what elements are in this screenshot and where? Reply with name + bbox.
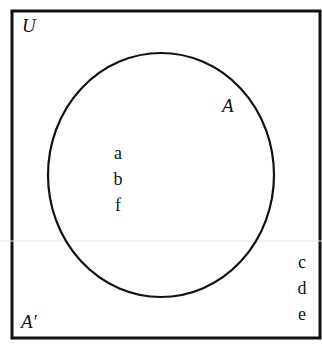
element-d: d	[294, 275, 310, 301]
set-a-circle	[48, 53, 274, 297]
set-a-label: A	[222, 96, 234, 115]
element-c: c	[294, 249, 310, 275]
venn-shapes	[0, 0, 322, 348]
complement-label: A′	[21, 312, 37, 331]
element-b: b	[110, 166, 126, 192]
element-a: a	[110, 140, 126, 166]
venn-diagram: U A A′ a b f c d e	[0, 0, 322, 348]
set-a-elements: a b f	[110, 140, 126, 218]
element-f: f	[110, 192, 126, 218]
universe-label: U	[22, 16, 36, 35]
element-e: e	[294, 301, 310, 327]
complement-elements: c d e	[294, 249, 310, 327]
